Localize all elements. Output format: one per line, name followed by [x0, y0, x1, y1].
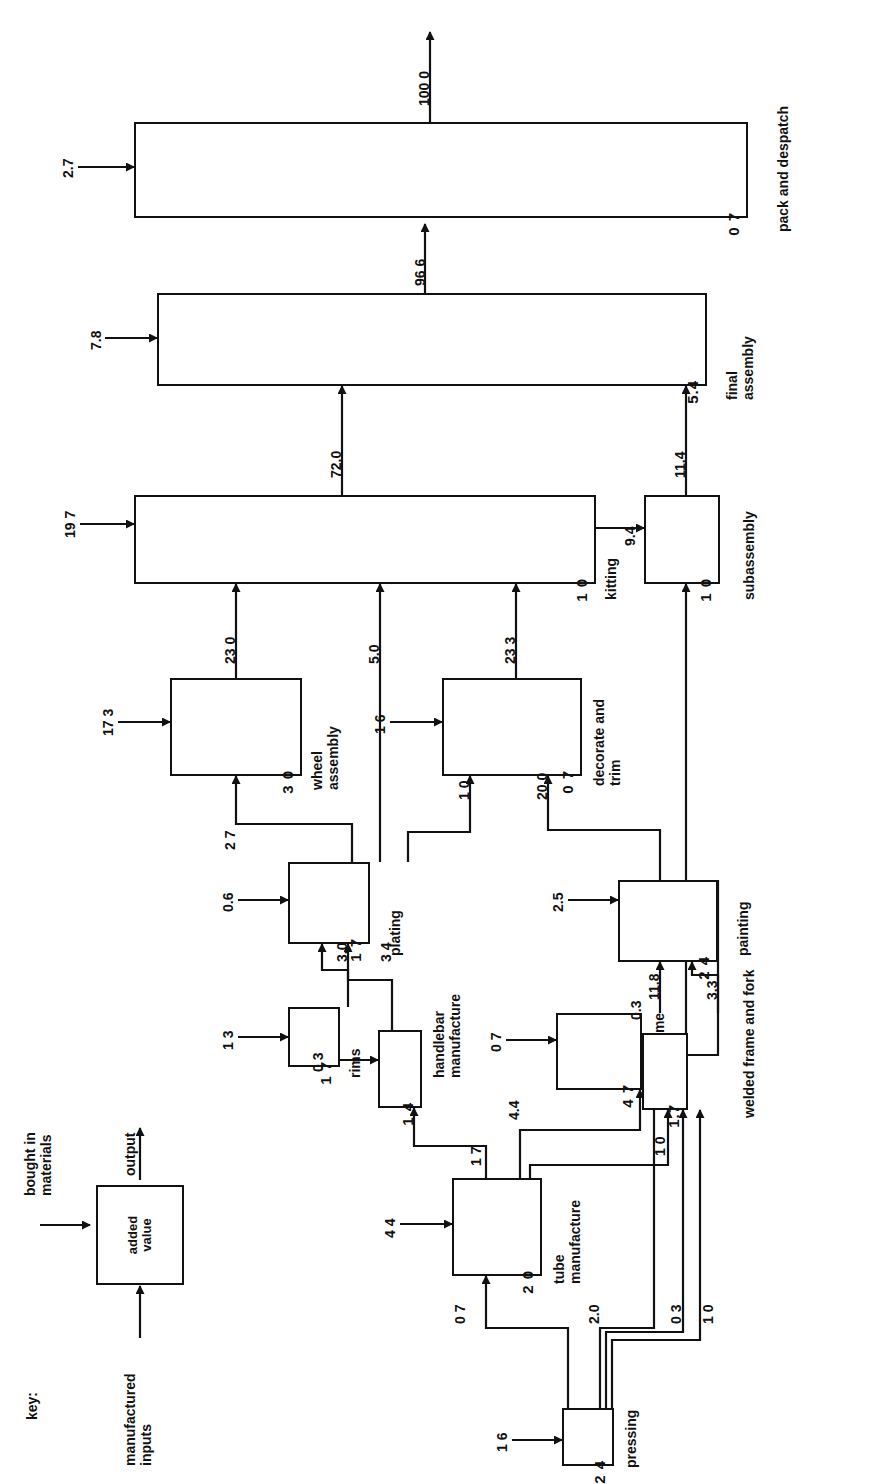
- node-value: 2 0: [519, 1270, 536, 1294]
- flow-pressing-to-tube: 0 7: [452, 1305, 468, 1324]
- node-painting[interactable]: 2 4: [618, 880, 718, 962]
- flow-plating-to-kitting: 5.0: [366, 645, 382, 664]
- node-label-final-assembly: final assembly: [725, 336, 756, 400]
- flow-output-total: 100 0: [416, 71, 432, 106]
- flow-wheel-assembly-to-kitting: 23 0: [222, 637, 238, 664]
- node-value: 1 0: [697, 578, 714, 602]
- key-bought-in-materials-label: bought in materials: [22, 1132, 54, 1196]
- flow-handlebar-to-plating: 3 4: [378, 943, 394, 962]
- flow-rims-to-plating: 3.0: [334, 943, 350, 962]
- flow-pressing-to-brazed-frame: 2.0: [586, 1305, 602, 1324]
- node-value: 0 7: [559, 770, 576, 794]
- flow-decorate-and-trim-to-kitting: 23 3: [502, 637, 518, 664]
- node-label-tube-manufacture: tube manufacture: [552, 1200, 583, 1284]
- flow-tube-to-handlebar: 1 7: [468, 1147, 484, 1166]
- flow-plating-to-decorate-and-trim: 1 0: [456, 781, 472, 800]
- flow-kitting-to-subassembly: 9.4: [622, 527, 638, 546]
- node-welded-frame-and-fork[interactable]: 1.7: [642, 1033, 688, 1110]
- flow-brazed-frame-to-painting: 11.8: [646, 974, 662, 1000]
- flow-bought-in-pack-and-despatch: 2.7: [60, 159, 76, 178]
- flow-bought-in-decorate-and-trim: 1 6: [372, 715, 388, 734]
- key-added-value-label: added value: [126, 1216, 155, 1254]
- key-added-value-box: added value: [96, 1185, 184, 1285]
- node-pack-and-despatch[interactable]: 0 7: [134, 122, 748, 218]
- flow-pressing-to-welded-frame-b: 1 0: [700, 1305, 716, 1324]
- node-value: 2 4: [695, 956, 712, 980]
- flow-bought-in-pressing: 1 6: [494, 1433, 510, 1452]
- flow-painting-to-decorate-and-trim: 20.0: [534, 773, 550, 800]
- node-value: 1 0: [573, 578, 590, 602]
- node-label-wheel-assembly: wheel assembly: [310, 726, 341, 790]
- flow-bought-in-welded-frame-and-fork: 0.3: [628, 1001, 644, 1020]
- node-value: 5.4: [684, 380, 701, 404]
- node-tube-manufacture[interactable]: 2 0: [452, 1178, 542, 1276]
- node-label-painting: painting: [736, 902, 752, 956]
- node-plating[interactable]: 1 7: [288, 862, 370, 944]
- node-decorate-and-trim[interactable]: 0 7: [442, 678, 582, 776]
- node-value: 1.7: [665, 1104, 682, 1128]
- node-kitting[interactable]: 1 0: [134, 495, 596, 584]
- node-label-subassembly: subassembly: [742, 511, 758, 600]
- node-final-assembly[interactable]: 5.4: [157, 293, 707, 386]
- flow-welded-frame-to-painting: 3.3: [704, 981, 720, 1000]
- node-pressing[interactable]: 2 4: [562, 1408, 614, 1466]
- node-handlebar-manufacture[interactable]: 1.4: [378, 1030, 422, 1108]
- flow-bought-in-rims: 1 3: [220, 1031, 236, 1050]
- flow-bought-in-brazed-frame-and-fork: 0 7: [488, 1033, 504, 1052]
- flow-final-assembly-to-pack: 96 6: [412, 259, 428, 286]
- flow-bought-in-final-assembly: 7.8: [88, 331, 104, 350]
- flow-bought-in-handlebar-manufacture: 0 3: [310, 1053, 326, 1072]
- flow-bought-in-wheel-assembly: 17 3: [100, 709, 116, 736]
- flow-pressing-to-welded-frame-a: 0 3: [668, 1305, 684, 1324]
- node-label-handlebar-manufacture: handlebar manufacture: [432, 994, 463, 1078]
- node-value: 2 4: [591, 1460, 608, 1484]
- node-subassembly[interactable]: 1 0: [644, 495, 720, 584]
- node-value: 0 7: [725, 212, 742, 236]
- key-output-label: output: [122, 1132, 138, 1176]
- node-label-kitting: kitting: [604, 558, 620, 600]
- node-label-pack-and-despatch: pack and despatch: [776, 106, 792, 232]
- node-value: 1.4: [399, 1102, 416, 1126]
- flow-plating-to-wheel-assembly: 2 7: [222, 831, 238, 850]
- flow-subassembly-to-final-assembly: 11.4: [672, 452, 688, 478]
- flow-tube-to-brazed-frame: 4.4: [506, 1101, 522, 1120]
- flow-bought-in-painting: 2.5: [550, 893, 566, 912]
- flow-bought-in-kitting: 19 7: [62, 511, 78, 538]
- node-label-pressing: pressing: [624, 1410, 640, 1468]
- node-label-rims: rims: [348, 1048, 364, 1078]
- node-value: 4 7: [619, 1084, 636, 1108]
- node-label-decorate-and-trim: decorate and trim: [592, 699, 623, 786]
- node-wheel-assembly[interactable]: 3 0: [170, 678, 302, 776]
- key-manufactured-inputs-label: manufactured inputs: [122, 1373, 154, 1466]
- flow-kitting-to-final-assembly: 72.0: [328, 451, 344, 478]
- flow-bought-in-tube-manufacture: 4 4: [382, 1219, 398, 1238]
- node-brazed-frame-and-fork[interactable]: 4 7: [556, 1013, 642, 1090]
- flow-tube-to-welded-frame: 1 0: [652, 1137, 668, 1156]
- node-value: 3 0: [279, 770, 296, 794]
- key-title: key:: [24, 1392, 40, 1420]
- flow-bought-in-plating: 0.6: [220, 893, 236, 912]
- node-label-welded-frame-and-fork: welded frame and fork: [742, 969, 758, 1118]
